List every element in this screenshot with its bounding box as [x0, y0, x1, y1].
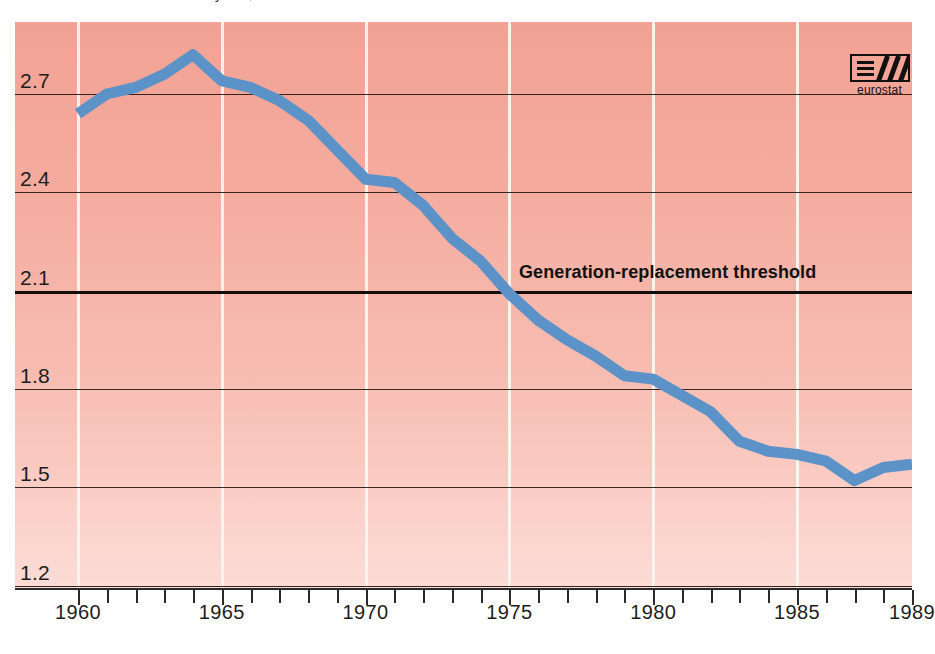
x-tick-1961 — [107, 590, 109, 603]
x-tick-1981 — [682, 590, 684, 603]
x-tick-label-1960: 1960 — [55, 601, 101, 624]
x-tick-label-1975: 1975 — [486, 601, 532, 624]
plot-area: eurostat — [15, 22, 912, 588]
x-tick-1971 — [394, 590, 396, 603]
y-tick-label-1-2: 1.2 — [20, 561, 50, 585]
eurostat-mark-icon — [850, 54, 910, 82]
x-tick-1982 — [711, 590, 713, 603]
x-tick-label-1965: 1965 — [199, 601, 245, 624]
x-tick-1969 — [337, 590, 339, 603]
x-tick-1979 — [624, 590, 626, 603]
x-tick-label-1970: 1970 — [343, 601, 389, 624]
y-tick-label-2-7: 2.7 — [20, 69, 50, 93]
eurostat-logo: eurostat — [848, 54, 911, 100]
x-tick-1963 — [164, 590, 166, 603]
x-tick-1972 — [423, 590, 425, 603]
x-tick-1988 — [883, 590, 885, 603]
threshold-annotation: Generation-replacement threshold — [519, 262, 816, 283]
x-tick-1976 — [538, 590, 540, 603]
y-tick-label-2-4: 2.4 — [20, 167, 50, 191]
x-tick-1984 — [768, 590, 770, 603]
x-tick-1986 — [826, 590, 828, 603]
x-tick-1974 — [481, 590, 483, 603]
x-tick-1962 — [136, 590, 138, 603]
fertility-line-series — [15, 22, 912, 588]
x-tick-1964 — [193, 590, 195, 603]
x-tick-label-1980: 1980 — [630, 601, 676, 624]
y-tick-label-1-8: 1.8 — [20, 364, 50, 388]
eurostat-wordmark: eurostat — [848, 83, 911, 97]
cropped-heading-remnant: Total fertility rate, EUR 12 — [0, 0, 929, 13]
x-tick-1987 — [855, 590, 857, 603]
x-tick-1973 — [452, 590, 454, 603]
x-tick-1966 — [251, 590, 253, 603]
x-tick-1983 — [739, 590, 741, 603]
x-tick-1978 — [596, 590, 598, 603]
x-tick-1967 — [279, 590, 281, 603]
y-tick-label-2-1: 2.1 — [20, 266, 50, 290]
y-tick-label-1-5: 1.5 — [20, 462, 50, 486]
cropped-heading-text: Total fertility rate, EUR 12 — [150, 0, 303, 2]
x-tick-1977 — [567, 590, 569, 603]
x-tick-1968 — [308, 590, 310, 603]
x-axis-line — [15, 588, 912, 590]
x-tick-label-1985: 1985 — [774, 601, 820, 624]
x-tick-label-1989: 1989 — [889, 601, 935, 624]
